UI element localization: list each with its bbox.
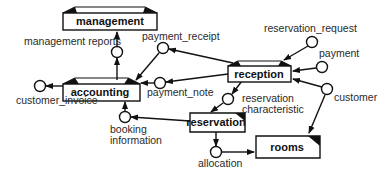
edge-customer-to-rooms — [309, 95, 325, 133]
store-management[interactable]: management — [63, 7, 157, 30]
flow-label-allocation: allocation — [198, 157, 243, 169]
edge-reception-to-payment-receipt — [169, 49, 233, 63]
edge-res-char-to-reservation — [211, 103, 223, 112]
store-reservation[interactable]: reservation — [186, 113, 246, 132]
store-management-label: management — [76, 15, 144, 27]
flow-label-management-reports: management reports — [24, 35, 121, 47]
flow-label-payment: payment — [319, 47, 359, 59]
flow-node-reservation-characteristic[interactable] — [223, 94, 234, 105]
store-rooms-label: rooms — [270, 141, 304, 153]
flow-label-reservation-request: reservation_request — [264, 22, 357, 34]
store-reception-label: reception — [234, 68, 284, 80]
flow-label-reservation-characteristic-line2: characteristic — [242, 103, 304, 115]
edge-reception-to-payment-note — [166, 74, 228, 82]
edge-payment-receipt-to-accounting — [136, 53, 159, 80]
flow-node-payment[interactable] — [317, 62, 328, 73]
flow-node-payment-receipt[interactable] — [158, 43, 169, 54]
flow-node-customer-invoice[interactable] — [35, 81, 46, 92]
flow-label-payment-note: payment_note — [147, 86, 214, 98]
store-rooms[interactable]: rooms — [256, 136, 320, 158]
flow-node-allocation[interactable] — [211, 147, 222, 158]
flow-label-booking-information-line2: information — [110, 134, 162, 146]
flow-node-reservation-request[interactable] — [307, 37, 318, 48]
edge-payment-to-reception — [293, 68, 316, 71]
flow-label-customer-invoice: customer_invoice — [16, 94, 98, 106]
store-reception[interactable]: reception — [228, 61, 291, 82]
flow-node-booking-information[interactable] — [120, 112, 131, 123]
edge-reception-to-res-char — [232, 81, 242, 94]
flow-node-customer[interactable] — [322, 84, 333, 95]
store-reservation-label: reservation — [186, 116, 246, 128]
edge-reservation-to-booking-info — [131, 117, 190, 121]
flow-label-customer: customer — [334, 91, 378, 103]
flow-label-payment-receipt: payment_receipt — [142, 30, 220, 42]
flow-node-management-reports[interactable] — [112, 47, 123, 58]
edge-reservation-request-to-reception — [284, 46, 308, 60]
edge-customer-to-reception — [293, 79, 322, 87]
diagram-canvas: management accounting reception reservat… — [0, 0, 392, 177]
